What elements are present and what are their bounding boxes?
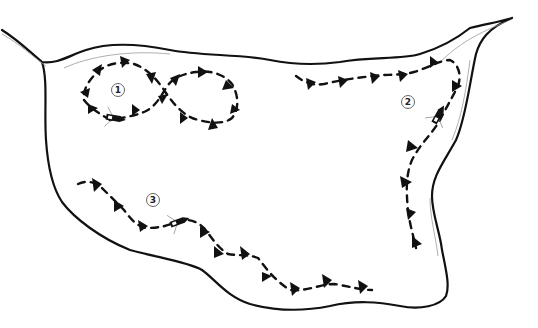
direction-arrow-icon bbox=[240, 246, 250, 260]
direction-arrow-icon bbox=[208, 118, 218, 130]
direction-arrow-icon bbox=[92, 64, 102, 76]
pattern-3-route: 3 bbox=[78, 178, 372, 296]
pattern-3-label: 3 bbox=[150, 195, 156, 205]
pattern-1-route: 1 bbox=[80, 56, 240, 130]
direction-arrow-icon bbox=[406, 208, 416, 220]
direction-arrow-icon bbox=[370, 72, 380, 84]
pattern-2-label: 2 bbox=[405, 97, 411, 107]
direction-arrow-icon bbox=[358, 280, 368, 294]
direction-arrow-icon bbox=[406, 140, 418, 152]
direction-arrow-icon bbox=[398, 70, 408, 82]
lake-diagram: 1 2 bbox=[0, 0, 538, 328]
direction-arrow-icon bbox=[158, 94, 168, 104]
direction-arrow-icon bbox=[452, 80, 462, 92]
pattern-2-route: 2 bbox=[296, 56, 462, 248]
direction-arrow-icon bbox=[114, 200, 124, 212]
direction-arrow-icon bbox=[138, 220, 148, 232]
direction-arrow-icon bbox=[230, 104, 240, 114]
direction-arrow-icon bbox=[338, 76, 348, 88]
direction-arrow-icon bbox=[92, 178, 102, 192]
direction-arrow-icon bbox=[290, 282, 300, 296]
direction-arrow-icon bbox=[198, 66, 208, 78]
direction-arrow-icon bbox=[170, 74, 180, 86]
pattern-1-label: 1 bbox=[115, 85, 121, 95]
direction-arrow-icon bbox=[430, 56, 438, 68]
direction-arrow-icon bbox=[412, 236, 422, 248]
